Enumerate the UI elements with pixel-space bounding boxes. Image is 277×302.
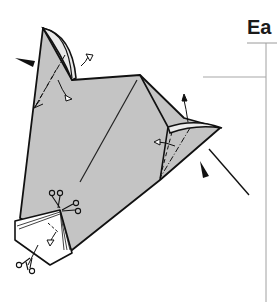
origami-diagram xyxy=(0,0,277,302)
fold-arrow-icon xyxy=(81,54,93,66)
push-arrow-icon xyxy=(200,161,209,178)
push-arrow-icon xyxy=(15,58,35,67)
repeat-scissors-icon xyxy=(16,258,34,274)
page-rules xyxy=(203,43,277,302)
leader-line xyxy=(209,149,249,195)
